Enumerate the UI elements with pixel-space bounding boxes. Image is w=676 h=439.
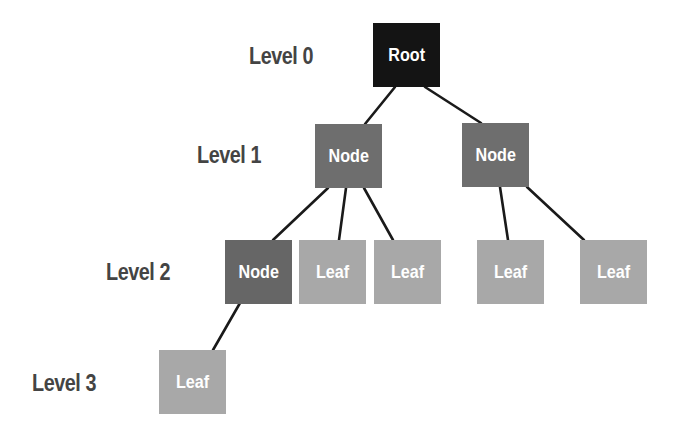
level-2-label: Level 2 xyxy=(106,258,170,286)
level-1-label: Level 1 xyxy=(197,141,261,169)
tree-edges xyxy=(0,0,676,439)
leaf-label: Leaf xyxy=(391,261,424,283)
edge-node1b-leaf2d xyxy=(527,187,584,240)
level-2-node: Node xyxy=(225,240,292,304)
leaf-label: Leaf xyxy=(176,371,209,393)
level-2-leaf-4: Leaf xyxy=(580,240,647,304)
node-label: Node xyxy=(238,261,278,283)
tree-diagram: Level 0 Level 1 Level 2 Level 3 Root Nod… xyxy=(0,0,676,439)
level-2-leaf-3: Leaf xyxy=(477,240,544,304)
edge-node1a-node2a xyxy=(273,188,328,240)
node-label: Node xyxy=(328,145,368,167)
edge-root-node1b xyxy=(425,87,481,123)
level-3-label: Level 3 xyxy=(32,369,96,397)
leaf-label: Leaf xyxy=(597,261,630,283)
edge-root-node1a xyxy=(365,87,395,124)
leaf-label: Leaf xyxy=(494,261,527,283)
level-1-node-left: Node xyxy=(315,124,382,188)
level-2-leaf-1: Leaf xyxy=(299,240,366,304)
level-0-label: Level 0 xyxy=(249,42,313,70)
node-label: Node xyxy=(475,144,515,166)
leaf-label: Leaf xyxy=(316,261,349,283)
edge-node1a-leaf2b xyxy=(364,188,393,240)
level-3-leaf: Leaf xyxy=(159,350,226,414)
level-2-leaf-2: Leaf xyxy=(374,240,441,304)
level-1-node-right: Node xyxy=(462,123,529,187)
edge-node1b-leaf2c xyxy=(500,187,508,240)
root-node-label: Root xyxy=(388,44,425,66)
edge-node1a-leaf2a xyxy=(339,188,346,240)
edge-node2a-leaf3a xyxy=(213,303,240,350)
root-node: Root xyxy=(373,23,440,87)
